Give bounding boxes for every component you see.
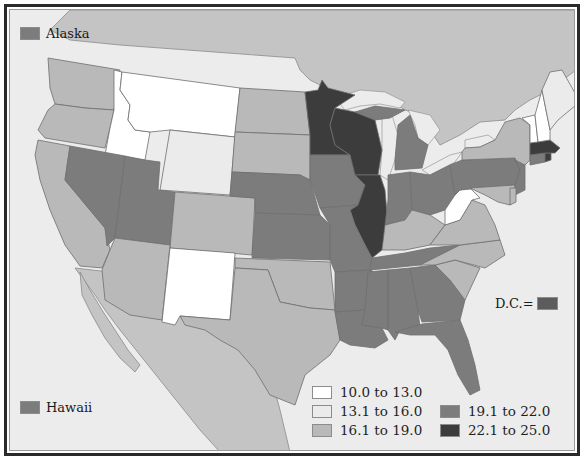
alaska-swatch xyxy=(20,27,40,40)
alaska-label: Alaska xyxy=(46,26,90,41)
state-delaware xyxy=(510,188,516,205)
legend-label-4: 19.1 to 22.0 xyxy=(468,403,550,419)
state-wyoming xyxy=(160,130,235,195)
state-washington xyxy=(48,58,120,110)
legend-item-2: 13.1 to 16.0 xyxy=(312,403,422,419)
state-north-dakota xyxy=(235,88,310,135)
state-rhode-island xyxy=(545,153,551,162)
hawaii-swatch xyxy=(20,401,40,414)
dc-swatch xyxy=(537,297,558,310)
legend-item-4: 19.1 to 22.0 xyxy=(440,403,550,419)
dc-label: D.C.= xyxy=(495,296,534,311)
legend-swatch-2 xyxy=(312,405,332,418)
legend-swatch-3 xyxy=(312,424,332,437)
legend-label-3: 16.1 to 19.0 xyxy=(340,422,422,438)
legend-item-3: 16.1 to 19.0 xyxy=(312,422,422,438)
legend-label-1: 10.0 to 13.0 xyxy=(340,384,422,400)
state-kansas xyxy=(252,213,330,260)
state-new-mexico xyxy=(162,248,235,325)
legend-label-5: 22.1 to 25.0 xyxy=(468,422,550,438)
legend-label-2: 13.1 to 16.0 xyxy=(340,403,422,419)
hawaii-label: Hawaii xyxy=(46,400,92,415)
state-colorado xyxy=(170,192,255,255)
alaska-inset-label: Alaska xyxy=(20,26,90,41)
state-oregon xyxy=(38,104,114,148)
legend-item-5: 22.1 to 25.0 xyxy=(440,422,550,438)
map-frame: Alaska Hawaii D.C.= 10.0 to 13.0 13.1 to… xyxy=(9,9,575,451)
legend-swatch-1 xyxy=(312,386,332,399)
dc-inset-label: D.C.= xyxy=(495,296,558,311)
legend-swatch-5 xyxy=(440,424,460,437)
legend-swatch-4 xyxy=(440,405,460,418)
hawaii-inset-label: Hawaii xyxy=(20,400,92,415)
state-montana xyxy=(120,72,240,137)
us-choropleth-map xyxy=(10,10,575,451)
legend-item-1: 10.0 to 13.0 xyxy=(312,384,422,400)
